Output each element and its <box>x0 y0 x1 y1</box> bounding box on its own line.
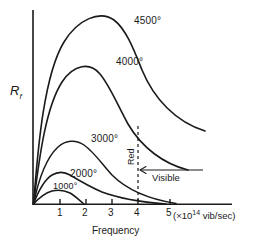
x-axis-unit-label: (×1014 vib/sec) <box>173 209 235 221</box>
blackbody-radiation-figure: Rf 4500° 4000° 3000° 2000° 1000° Red Vis… <box>0 0 256 244</box>
curve-label-3000: 3000° <box>91 134 118 144</box>
y-axis-label: Rf <box>10 84 22 101</box>
x-tick-label-5: 5 <box>166 208 172 218</box>
curve-label-2000: 2000° <box>70 169 97 179</box>
x-tick-label-2: 2 <box>82 208 88 218</box>
curve-label-4000: 4000° <box>116 57 143 67</box>
x-axis-title: Frequency <box>92 226 139 236</box>
x-axis-unit-suffix: vib/sec) <box>200 210 235 221</box>
y-axis-label-text: R <box>10 83 19 98</box>
curve-label-4500: 4500° <box>134 16 161 26</box>
y-axis-label-subscript: f <box>19 92 21 101</box>
x-tick-label-1: 1 <box>57 208 63 218</box>
curve-1000 <box>34 190 85 204</box>
x-tick-label-4: 4 <box>134 208 140 218</box>
x-tick-label-3: 3 <box>108 208 114 218</box>
curve-label-1000: 1000° <box>53 182 78 191</box>
visible-annotation-label: Visible <box>152 173 180 183</box>
x-axis-unit-prefix: (×10 <box>173 210 192 221</box>
red-annotation-label: Red <box>127 148 136 165</box>
plot-canvas <box>0 0 256 244</box>
x-axis-unit-exponent: 14 <box>192 209 200 216</box>
